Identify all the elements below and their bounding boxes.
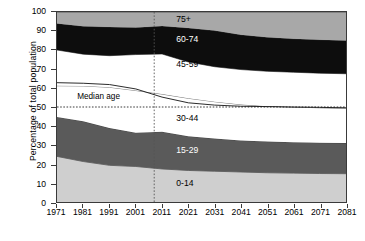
y-tick-label: 30 xyxy=(20,140,46,150)
x-tick-mark xyxy=(162,204,163,208)
y-tick-label: 20 xyxy=(20,160,46,170)
x-tick-mark xyxy=(294,204,295,208)
area-band-label-60-74: 60-74 xyxy=(176,34,198,44)
y-tick-label: 60 xyxy=(20,83,46,93)
y-tick-label: 40 xyxy=(20,121,46,131)
x-tick-label: 2081 xyxy=(327,207,365,217)
x-tick-mark xyxy=(241,204,242,208)
median-age-label: Median age xyxy=(77,92,120,101)
x-tick-mark xyxy=(188,204,189,208)
y-tick-label: 10 xyxy=(20,179,46,189)
x-tick-mark xyxy=(135,204,136,208)
x-tick-mark xyxy=(109,204,110,208)
area-band-label-15-29: 15-29 xyxy=(176,145,198,155)
y-tick-label: 100 xyxy=(20,6,46,16)
area-band-label-75plus: 75+ xyxy=(176,14,191,24)
x-tick-mark xyxy=(268,204,269,208)
plot-area xyxy=(56,11,347,203)
plot-svg xyxy=(57,12,346,202)
x-tick-mark xyxy=(321,204,322,208)
x-tick-mark xyxy=(82,204,83,208)
area-band-label-45-59: 45-59 xyxy=(176,59,198,69)
x-tick-mark xyxy=(215,204,216,208)
y-tick-label: 70 xyxy=(20,64,46,74)
y-tick-label: 50 xyxy=(20,102,46,112)
x-tick-mark xyxy=(347,204,348,208)
y-tick-label: 80 xyxy=(20,44,46,54)
x-tick-mark xyxy=(56,204,57,208)
y-tick-label: 90 xyxy=(20,25,46,35)
area-band-label-30-44: 30-44 xyxy=(176,113,198,123)
area-band-label-0-14: 0-14 xyxy=(176,178,193,188)
age-structure-stacked-area-chart: Percentage of total population 010203040… xyxy=(0,0,365,241)
